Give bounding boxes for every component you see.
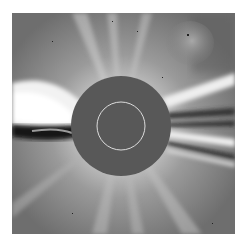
cme-blob xyxy=(166,21,214,65)
dark-band-left xyxy=(12,125,78,140)
corona-svg xyxy=(12,13,235,234)
coronagraph-image xyxy=(12,13,235,234)
occulting-disk xyxy=(71,76,171,176)
